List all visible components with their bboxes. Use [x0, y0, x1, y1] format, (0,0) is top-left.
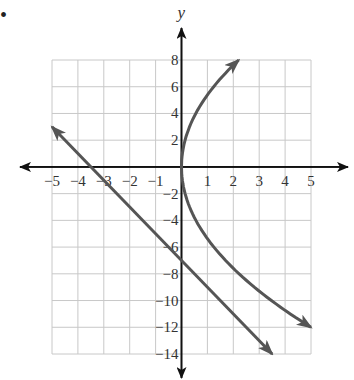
svg-text:3: 3 [255, 173, 263, 189]
svg-text:4: 4 [281, 173, 289, 189]
svg-text:−8: −8 [163, 266, 179, 282]
svg-text:−14: −14 [155, 346, 179, 362]
tick-labels: −5−4−3−2−1123458642−2−4−6−8−10−12−14 [44, 52, 315, 362]
svg-text:2: 2 [171, 132, 179, 148]
graph: y −5−4−3−2−1123458642−2−4−6−8−10−12−14 [0, 0, 354, 380]
svg-text:5: 5 [307, 173, 315, 189]
svg-text:−4: −4 [70, 173, 86, 189]
svg-text:−1: −1 [148, 173, 164, 189]
svg-text:−2: −2 [122, 173, 138, 189]
svg-text:−5: −5 [44, 173, 60, 189]
svg-text:8: 8 [171, 52, 179, 68]
svg-text:2: 2 [230, 173, 238, 189]
svg-text:−12: −12 [155, 319, 178, 335]
svg-text:6: 6 [171, 79, 179, 95]
y-axis-label: y [176, 3, 186, 22]
svg-text:1: 1 [204, 173, 212, 189]
svg-text:−2: −2 [163, 186, 179, 202]
svg-text:−4: −4 [163, 212, 179, 228]
svg-text:−10: −10 [155, 293, 178, 309]
svg-text:4: 4 [171, 105, 179, 121]
